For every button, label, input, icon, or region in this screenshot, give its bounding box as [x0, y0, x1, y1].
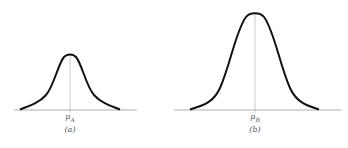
mean-label-b: μB — [240, 112, 270, 123]
caption-a: (a) — [55, 125, 85, 134]
caption-b: (b) — [240, 125, 270, 134]
figure-canvas — [0, 0, 348, 148]
normal-curve-b — [190, 13, 319, 109]
mean-label-a: μA — [55, 112, 85, 123]
panel-b — [174, 13, 341, 113]
panel-a — [14, 54, 137, 113]
